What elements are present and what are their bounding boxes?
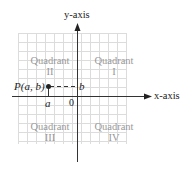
quadrant-i-numeral: I <box>84 66 144 77</box>
point-p-marker <box>46 84 51 89</box>
quadrant-ii-name: Quadrant <box>20 55 80 66</box>
quadrant-iv: Quadrant IV <box>84 121 144 143</box>
quadrant-iv-numeral: IV <box>84 132 144 143</box>
b-label: b <box>79 81 85 92</box>
y-axis-label: y-axis <box>64 10 90 21</box>
x-axis-label: x-axis <box>154 91 180 102</box>
origin-label: 0 <box>69 98 74 108</box>
a-label: a <box>45 98 51 109</box>
quadrant-iii-name: Quadrant <box>20 121 80 132</box>
quadrant-i-name: Quadrant <box>84 55 144 66</box>
quadrant-iv-name: Quadrant <box>84 121 144 132</box>
quadrant-ii-numeral: II <box>20 66 80 77</box>
quadrant-i: Quadrant I <box>84 55 144 77</box>
quadrant-iii-numeral: III <box>20 132 80 143</box>
quadrant-iii: Quadrant III <box>20 121 80 143</box>
quadrant-ii: Quadrant II <box>20 55 80 77</box>
x-axis-arrow-icon <box>144 94 152 100</box>
point-label: P(a, b) <box>14 81 45 92</box>
y-axis-arrow-icon <box>75 23 81 31</box>
